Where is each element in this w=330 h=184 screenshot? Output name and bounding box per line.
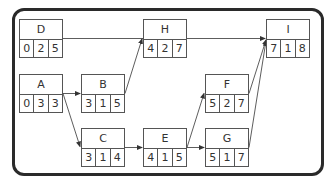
node-label: F	[206, 75, 248, 95]
node-duration: 3	[33, 95, 47, 113]
node-values: 718	[267, 40, 309, 58]
node-label: A	[20, 75, 62, 95]
node-earliest-start: 4	[144, 40, 157, 58]
node-earliest-start: 0	[20, 95, 33, 113]
node-label: H	[144, 20, 186, 40]
node-F: F527	[205, 74, 249, 113]
node-label: D	[20, 20, 62, 40]
node-earliest-finish: 7	[234, 149, 248, 167]
node-earliest-start: 5	[206, 95, 219, 113]
node-earliest-finish: 8	[295, 40, 309, 58]
node-B: B315	[81, 74, 125, 113]
node-label: E	[144, 129, 186, 149]
node-earliest-start: 3	[82, 149, 95, 167]
node-earliest-start: 0	[20, 40, 33, 58]
node-E: E415	[143, 128, 187, 167]
node-duration: 1	[219, 149, 233, 167]
node-earliest-start: 4	[144, 149, 157, 167]
node-duration: 1	[280, 40, 294, 58]
node-earliest-finish: 7	[172, 40, 186, 58]
node-G: G517	[205, 128, 249, 167]
node-A: A033	[19, 74, 63, 113]
node-earliest-finish: 5	[48, 40, 62, 58]
node-label: C	[82, 129, 124, 149]
node-values: 033	[20, 95, 62, 113]
node-duration: 1	[95, 95, 109, 113]
node-label: B	[82, 75, 124, 95]
node-values: 527	[206, 95, 248, 113]
edge-E-F	[187, 94, 204, 148]
node-duration: 1	[95, 149, 109, 167]
node-earliest-finish: 3	[48, 95, 62, 113]
node-values: 315	[82, 95, 124, 113]
node-values: 427	[144, 40, 186, 58]
node-label: I	[267, 20, 309, 40]
node-earliest-finish: 7	[234, 95, 248, 113]
node-earliest-finish: 5	[110, 95, 124, 113]
node-C: C314	[81, 128, 125, 167]
node-earliest-start: 3	[82, 95, 95, 113]
edge-B-H	[125, 39, 142, 94]
node-duration: 1	[157, 149, 171, 167]
node-label: G	[206, 129, 248, 149]
node-duration: 2	[157, 40, 171, 58]
node-earliest-finish: 5	[172, 149, 186, 167]
node-earliest-start: 5	[206, 149, 219, 167]
node-earliest-start: 7	[267, 40, 280, 58]
node-values: 025	[20, 40, 62, 58]
edge-F-I	[249, 40, 266, 94]
node-values: 314	[82, 149, 124, 167]
node-earliest-finish: 4	[110, 149, 124, 167]
node-duration: 2	[219, 95, 233, 113]
node-I: I718	[266, 19, 310, 58]
node-values: 517	[206, 149, 248, 167]
node-H: H427	[143, 19, 187, 58]
edge-A-C	[63, 94, 80, 147]
node-duration: 2	[33, 40, 47, 58]
node-D: D025	[19, 19, 63, 58]
node-values: 415	[144, 149, 186, 167]
edge-G-I	[249, 41, 266, 148]
